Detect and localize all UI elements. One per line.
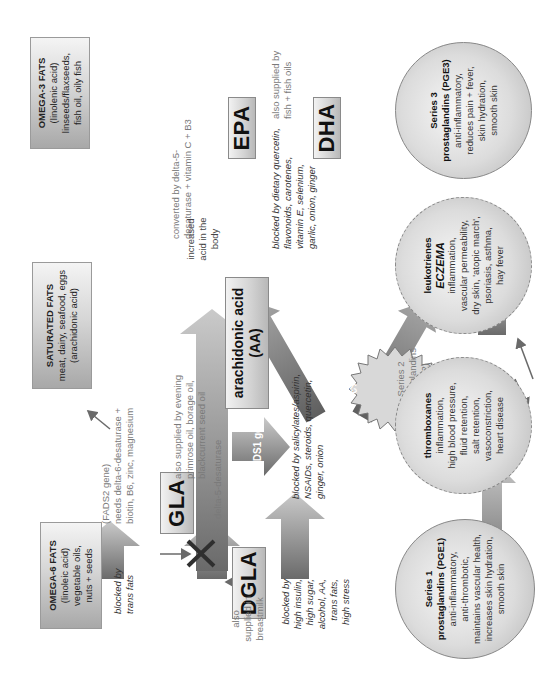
circle-line: dry skin, 'atopic march', <box>470 216 482 315</box>
arrow-fish-to-dha <box>518 339 533 379</box>
note-line: needs delta-6-desaturase + <box>112 374 124 524</box>
saturated-line: (arachidonic acid) <box>68 263 80 388</box>
circle-heading: prostaglandins (PGE1) <box>435 538 447 640</box>
note-line: trans fats, <box>328 579 340 649</box>
omega3-line: fish oil, oily fish <box>72 38 84 148</box>
outcome-series3-pge3: Series 3 prostaglandins (PGE3) anti-infl… <box>395 42 532 179</box>
omega3-heading: OMEGA-3 FATS <box>36 38 48 148</box>
outcome-series1-pge1: Series 1 prostaglandins (PGE1) anti-infl… <box>395 519 535 659</box>
omega3-line: linseeds/flaxseeds, <box>60 38 72 148</box>
circle-line: inflammation, <box>434 397 446 454</box>
circle-emphasis: ECZEMA <box>434 242 446 288</box>
arrow-saturated-to-aa <box>265 493 325 579</box>
node-epa: EPA <box>228 97 256 159</box>
node-gla: GLA <box>160 472 194 534</box>
burst-line: increased <box>185 209 197 269</box>
note-line: blackcurrent seed oil <box>196 339 208 479</box>
node-arachidonic-acid: arachidonic acid (AA) <box>225 277 269 409</box>
circle-line: smooth skin <box>495 564 507 615</box>
note-dgla-blocked: blocked by high insulin, high sugar, alc… <box>280 579 352 649</box>
note-line: high stress <box>340 579 352 649</box>
aa-label: arachidonic acid <box>230 288 247 398</box>
note-breastmilk: also supplied in breastmilk <box>230 589 266 649</box>
circle-line: salt retention, <box>470 397 482 454</box>
note-gla-supply: also supplied by evening primrose oil, b… <box>172 339 208 479</box>
circle-heading: Series 1 <box>423 571 435 607</box>
note-line: high insulin, <box>292 579 304 649</box>
circle-line: high blood pressure, <box>446 382 458 468</box>
circle-line: heart disease <box>494 397 506 454</box>
note-line: (FADS2 gene) <box>100 374 112 524</box>
circle-line: reduces pain + fever, <box>464 66 476 154</box>
note-fish-supply: also supplied by fish + fish oils <box>270 19 294 119</box>
circle-line: smooth skin <box>488 85 500 136</box>
note-line: primrose oil, borage oil, <box>184 339 196 479</box>
gla-label: GLA <box>164 479 190 527</box>
note-line: blocked by <box>280 579 292 649</box>
outcome-thromboxanes: thromboxanes inflammation, high blood pr… <box>395 357 532 494</box>
saturated-heading: SATURATED FATS <box>44 263 56 388</box>
note-line: biotin, B6, zinc, magnesium <box>124 374 136 524</box>
source-saturated-fats: SATURATED FATS meat, dairy, seafood, egg… <box>32 262 92 389</box>
source-omega6-fats: OMEGA-6 FATS (linoleic acid) vegetable o… <box>40 522 102 629</box>
note-line: also supplied by evening <box>172 339 184 479</box>
omega3-line: (linolenic acid) <box>48 38 60 148</box>
outcome-leukotrienes: leukotrienes ECZEMA inflammation, vascul… <box>395 197 532 334</box>
note-line: blocked by salicylates/aspirin, <box>290 329 302 499</box>
saturated-line: meat, dairy, seafood, eggs <box>56 263 68 388</box>
circle-line: anti-inflammatory, <box>447 552 459 627</box>
circle-line: anti-thrombotic, <box>459 556 471 621</box>
circle-line: fluid retention, <box>458 396 470 456</box>
note-line: breastmilk <box>254 589 266 649</box>
circle-heading: leukotrienes <box>422 238 434 294</box>
note-delta5: delta-5-desaturase <box>212 440 224 519</box>
burst-line: body <box>209 209 221 269</box>
note-fads2: (FADS2 gene) needs delta-6-desaturase + … <box>100 374 136 524</box>
omega6-line: (linoleic acid) <box>59 523 71 628</box>
note-line: alcohol, AA, <box>316 579 328 649</box>
circle-line: vascular permeability, <box>458 220 470 311</box>
note-line: NSAIDs, steroids, quercetin, <box>302 329 314 499</box>
circle-line: skin hydration, <box>476 80 488 141</box>
circle-line: inflammation, <box>446 237 458 294</box>
diagram-frame: OMEGA-6 FATS (linoleic acid) vegetable o… <box>0 0 535 679</box>
circle-line: maintains vascular health, <box>471 534 483 644</box>
note-line: trans fats <box>124 554 136 614</box>
note-line: blocked by <box>112 554 124 614</box>
note-cox-blocked: blocked by salicylates/aspirin, NSAIDs, … <box>290 329 326 499</box>
circle-line: increases skin hydration, <box>483 537 495 642</box>
label-fads1-gene: FADS1 gene <box>252 416 263 474</box>
omega6-line: vegetable oils, <box>71 523 83 628</box>
source-omega3-fats: OMEGA-3 FATS (linolenic acid) linseeds/f… <box>30 37 90 149</box>
circle-heading: Series 3 <box>428 92 440 128</box>
circle-line: hay fever <box>494 246 506 285</box>
note-line: ginger, onion <box>314 329 326 499</box>
circle-heading: prostaglandins (PGE3) <box>440 59 452 161</box>
note-line: converted by delta-5- <box>170 79 182 239</box>
omega6-heading: OMEGA-6 FATS <box>47 523 59 628</box>
note-line: also supplied by <box>270 19 282 119</box>
note-line: fish + fish oils <box>282 19 294 119</box>
burst-text: increased acid in the body <box>185 209 221 269</box>
pathway-canvas: OMEGA-6 FATS (linoleic acid) vegetable o… <box>0 0 535 679</box>
note-line: garlic, onion, ginger <box>306 89 318 249</box>
circle-line: anti-inflammatory, <box>452 73 464 148</box>
circle-line: psoriasis, asthma, <box>482 227 494 304</box>
epa-label: EPA <box>229 105 255 150</box>
circle-heading: thromboxanes <box>422 393 434 458</box>
aa-abbrev: (AA) <box>247 328 264 358</box>
note-line: also <box>230 589 242 649</box>
note-line: vitamin E, selenium, <box>294 89 306 249</box>
note-blocked-trans-fats: blocked by trans fats <box>112 554 136 614</box>
omega6-line: nuts + seeds <box>83 523 95 628</box>
note-line: supplied in <box>242 589 254 649</box>
note-line: high sugar, <box>304 579 316 649</box>
burst-line: acid in the <box>197 209 209 269</box>
circle-line: vasoconstriction, <box>482 390 494 461</box>
